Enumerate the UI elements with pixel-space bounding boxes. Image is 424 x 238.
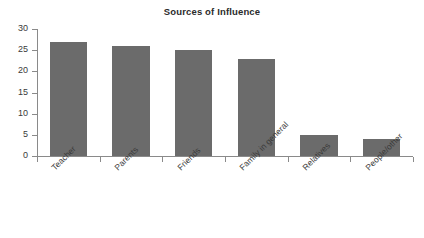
- y-tick-label: 0: [0, 151, 28, 160]
- bar: [50, 42, 88, 156]
- y-tick-mark: [32, 71, 37, 72]
- plot-area: 051015202530 TeacherParentsFriendsFamily…: [0, 0, 424, 238]
- x-tick-mark: [162, 157, 163, 162]
- y-tick-label: 15: [0, 88, 28, 97]
- y-tick-label: 25: [0, 45, 28, 54]
- y-tick-label: 10: [0, 109, 28, 118]
- y-tick-mark: [32, 29, 37, 30]
- x-tick-mark: [413, 157, 414, 162]
- x-tick-mark: [288, 157, 289, 162]
- x-tick-mark: [37, 157, 38, 162]
- y-tick-label: 5: [0, 130, 28, 139]
- bar-chart: Sources of Influence 051015202530 Teache…: [0, 0, 424, 238]
- bar: [112, 46, 150, 156]
- y-tick-label: 20: [0, 66, 28, 75]
- y-tick-mark: [32, 93, 37, 94]
- bar: [175, 50, 213, 156]
- x-tick-mark: [100, 157, 101, 162]
- y-tick-mark: [32, 114, 37, 115]
- y-tick-mark: [32, 50, 37, 51]
- y-tick-label: 30: [0, 24, 28, 33]
- y-axis-line: [37, 29, 38, 157]
- x-tick-mark: [225, 157, 226, 162]
- y-tick-mark: [32, 135, 37, 136]
- x-tick-mark: [350, 157, 351, 162]
